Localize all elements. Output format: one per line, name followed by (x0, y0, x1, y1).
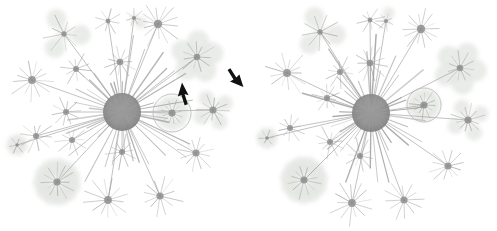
right-hub-node (352, 94, 390, 132)
left-hub-node (103, 93, 141, 131)
left-graph-svg (0, 0, 252, 231)
left-graph-panel (0, 0, 252, 231)
figure-container: Hub-and-spoke network graph comparison (0, 0, 497, 231)
right-graph-panel (252, 0, 497, 231)
right-graph-svg (252, 0, 497, 231)
